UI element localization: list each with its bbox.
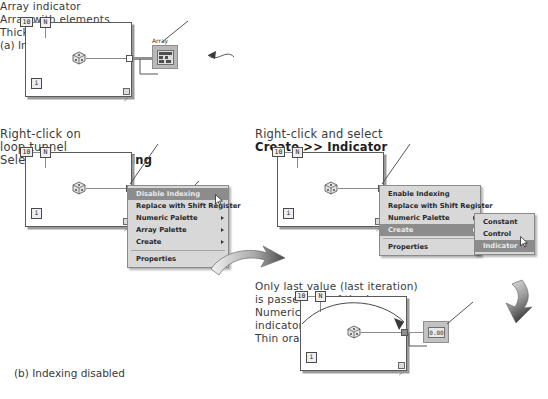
leader-thin-orange-wire bbox=[407, 332, 429, 354]
menu-item-create-label: Create bbox=[136, 238, 161, 246]
panel-b-caption: (b) Indexing disabled bbox=[14, 367, 125, 379]
annotation-array-indicator: Array indicator bbox=[0, 0, 548, 13]
loop-count-terminal-b1[interactable]: N bbox=[40, 147, 51, 158]
loop-count-constant-b1[interactable]: 10 bbox=[20, 147, 33, 157]
leader-last-value bbox=[300, 298, 420, 340]
wire-n-drop-b2 bbox=[297, 158, 298, 168]
menu-separator bbox=[383, 238, 477, 239]
mouse-cursor-icon-left bbox=[215, 194, 223, 206]
loop-count-constant-b2[interactable]: 10 bbox=[272, 147, 285, 157]
leader-right-click-loop-tunnel bbox=[126, 140, 162, 186]
chevron-right-icon bbox=[221, 216, 224, 220]
loop-count-terminal-a[interactable]: N bbox=[40, 17, 51, 28]
menu-item-numeric-palette-label: Numeric Palette bbox=[136, 214, 198, 222]
menu-item-disable-indexing[interactable]: Disable Indexing bbox=[128, 188, 228, 200]
loop-iteration-terminal-b2[interactable]: i bbox=[283, 208, 294, 219]
wire-dice-to-tunnel-a bbox=[86, 58, 126, 59]
panel-b-step3-result: 10 N i 0.00 Only last value (last iterat… bbox=[255, 280, 548, 399]
mouse-cursor-icon-right bbox=[520, 236, 528, 248]
loop-count-constant-a[interactable]: 10 bbox=[20, 17, 33, 27]
leader-array-indicator bbox=[160, 18, 210, 44]
loop-resize-nub-b3[interactable] bbox=[398, 362, 405, 369]
loop-iteration-terminal-b3[interactable]: i bbox=[306, 352, 317, 363]
context-menu-create[interactable]: Enable Indexing Replace with Shift Regis… bbox=[379, 185, 481, 256]
loop-iteration-terminal-a[interactable]: i bbox=[31, 78, 42, 89]
menu-item-enable-indexing[interactable]: Enable Indexing bbox=[380, 188, 480, 200]
wire-constant-to-n-b3 bbox=[308, 296, 315, 297]
wire-dice-to-tunnel-b2 bbox=[338, 188, 378, 189]
leader-thick-orange-wire bbox=[136, 58, 160, 82]
chevron-right-icon bbox=[221, 240, 224, 244]
loop-count-terminal-b2[interactable]: N bbox=[292, 147, 303, 158]
wire-n-drop-a bbox=[45, 28, 46, 38]
wire-dice-to-tunnel-b1 bbox=[86, 188, 126, 189]
chevron-right-icon bbox=[221, 228, 224, 232]
numeric-indicator-value: 0.00 bbox=[428, 327, 445, 338]
wire-constant-to-n-a bbox=[33, 22, 40, 23]
leader-array-with-elements bbox=[180, 46, 236, 64]
menu-item-array-palette[interactable]: Array Palette bbox=[128, 224, 228, 236]
random-number-icon-a[interactable] bbox=[71, 51, 86, 65]
random-number-icon-b2[interactable] bbox=[323, 181, 338, 195]
leader-numeric-indicator bbox=[445, 300, 479, 326]
menu-item-replace-with-shift-register[interactable]: Replace with Shift Register bbox=[380, 200, 480, 212]
leader-right-click-create-indicator bbox=[378, 140, 414, 186]
loop-tunnel-a[interactable] bbox=[126, 55, 133, 62]
menu-item-array-palette-label: Array Palette bbox=[136, 226, 187, 234]
submenu-item-constant[interactable]: Constant bbox=[475, 216, 534, 228]
wire-n-drop-b1 bbox=[45, 158, 46, 168]
panel-a-indexing-enabled: 10 N i Array bbox=[0, 0, 548, 128]
submenu-create[interactable]: Constant Control Indicator bbox=[474, 213, 535, 255]
menu-item-replace-with-shift-register[interactable]: Replace with Shift Register bbox=[128, 200, 228, 212]
menu-item-numeric-palette[interactable]: Numeric Palette bbox=[380, 212, 480, 224]
menu-item-properties[interactable]: Properties bbox=[380, 241, 480, 253]
random-number-icon-b1[interactable] bbox=[71, 181, 86, 195]
loop-resize-nub-a[interactable] bbox=[123, 88, 130, 95]
menu-item-create-label: Create bbox=[388, 226, 413, 234]
menu-item-create[interactable]: Create bbox=[380, 224, 480, 236]
menu-item-numeric-palette-label: Numeric Palette bbox=[388, 214, 450, 222]
menu-item-numeric-palette[interactable]: Numeric Palette bbox=[128, 212, 228, 224]
wire-constant-to-n-b2 bbox=[285, 152, 292, 153]
loop-iteration-terminal-b1[interactable]: i bbox=[31, 208, 42, 219]
wire-constant-to-n-b1 bbox=[33, 152, 40, 153]
